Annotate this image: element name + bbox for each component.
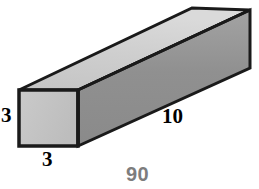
volume-answer-label: 90	[126, 164, 149, 184]
depth-dimension-label: 3	[42, 149, 53, 170]
figure-canvas: 3 3 10 90	[0, 0, 259, 189]
height-dimension-label: 3	[1, 105, 12, 126]
front-face	[19, 90, 78, 146]
rectangular-prism-drawing	[0, 0, 259, 189]
length-dimension-label: 10	[162, 106, 183, 127]
